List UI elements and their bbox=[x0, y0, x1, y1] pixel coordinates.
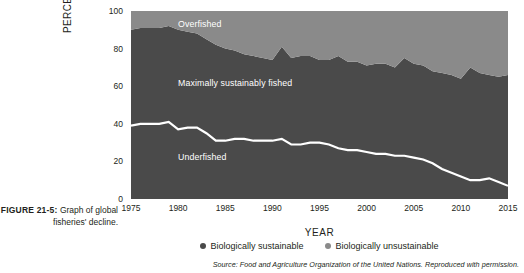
x-tick-label-2005: 2005 bbox=[404, 203, 423, 213]
legend-label-0: Biologically sustainable bbox=[210, 241, 303, 251]
x-tick-label-2010: 2010 bbox=[451, 203, 470, 213]
band-label-overfished: Overfished bbox=[178, 19, 222, 29]
x-tick-label-2015: 2015 bbox=[499, 203, 518, 213]
x-tick-label-1980: 1980 bbox=[169, 203, 188, 213]
chart-legend: Biologically sustainableBiologically uns… bbox=[131, 241, 508, 251]
x-tick-label-1995: 1995 bbox=[310, 203, 329, 213]
y-axis-tick-labels: 020406080100 bbox=[95, 0, 123, 273]
plot-area: Overfished Maximally sustainably fished … bbox=[131, 11, 508, 199]
band-label-underfished: Underfished bbox=[178, 152, 227, 162]
source-note: Source: Food and Agriculture Organizatio… bbox=[0, 260, 519, 269]
y-axis-title: PERCENTAGE bbox=[62, 0, 73, 52]
y-tick-label-20: 20 bbox=[95, 156, 123, 166]
x-axis-title: YEAR bbox=[131, 227, 508, 238]
stacked-area-chart bbox=[131, 11, 508, 199]
x-axis-tick-labels: 197519801985199019952000200520102015 bbox=[0, 203, 524, 217]
legend-item-0[interactable]: Biologically sustainable bbox=[200, 241, 303, 251]
x-tick-label-1990: 1990 bbox=[263, 203, 282, 213]
legend-dot-sustainable-icon bbox=[200, 243, 206, 249]
legend-item-1[interactable]: Biologically unsustainable bbox=[325, 241, 438, 251]
y-tick-label-40: 40 bbox=[95, 119, 123, 129]
figure-container: FIGURE 21-5: Graph of global fisheries' … bbox=[0, 0, 524, 273]
y-tick-label-100: 100 bbox=[95, 6, 123, 16]
x-tick-label-1975: 1975 bbox=[122, 203, 141, 213]
x-tick-label-1985: 1985 bbox=[216, 203, 235, 213]
legend-dot-unsustainable-icon bbox=[325, 243, 331, 249]
legend-label-1: Biologically unsustainable bbox=[335, 241, 438, 251]
x-tick-label-2000: 2000 bbox=[357, 203, 376, 213]
y-tick-label-60: 60 bbox=[95, 81, 123, 91]
y-tick-label-80: 80 bbox=[95, 44, 123, 54]
band-label-maximally-sustainably-fished: Maximally sustainably fished bbox=[178, 78, 292, 88]
